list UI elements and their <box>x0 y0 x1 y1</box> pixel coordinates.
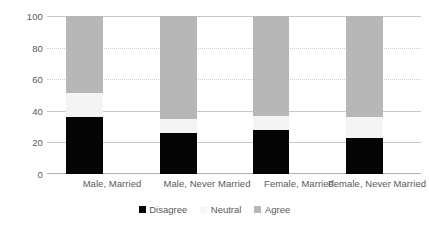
plot-area <box>47 16 421 174</box>
bar-segment-agree <box>253 16 289 116</box>
x-category-label-2: Female, Married <box>264 178 334 189</box>
bar-segment-disagree <box>66 117 103 174</box>
bar-segment-disagree <box>160 133 197 174</box>
x-category-label-0: Male, Married <box>83 178 142 189</box>
bar-male-married[interactable] <box>66 16 103 174</box>
bar-female-never-married[interactable] <box>346 16 383 174</box>
bar-segment-neutral <box>66 93 103 117</box>
x-category-label-3: Female, Never Married <box>328 178 426 189</box>
y-axis: 0 20 40 60 80 100 <box>0 16 43 174</box>
y-tick-label-100: 100 <box>3 11 43 22</box>
legend-label-neutral: Neutral <box>211 204 242 215</box>
y-tick-label-20: 20 <box>3 137 43 148</box>
bar-segment-neutral <box>346 117 383 138</box>
white-square-icon <box>200 206 207 213</box>
bar-female-married[interactable] <box>253 16 289 174</box>
legend-item-neutral[interactable]: Neutral <box>200 204 241 215</box>
bar-male-never-married[interactable] <box>160 16 197 174</box>
legend-label-disagree: Disagree <box>149 204 187 215</box>
chart-legend: Disagree Neutral Agree <box>0 204 429 215</box>
bar-segment-disagree <box>346 138 383 174</box>
y-tick-label-40: 40 <box>3 105 43 116</box>
legend-label-agree: Agree <box>265 204 290 215</box>
gray-square-icon <box>254 206 261 213</box>
bar-segment-agree <box>160 16 197 119</box>
stacked-bar-chart: 0 20 40 60 80 100 <box>0 0 429 227</box>
legend-item-agree[interactable]: Agree <box>254 204 290 215</box>
bar-segment-agree <box>346 16 383 117</box>
y-tick-label-60: 60 <box>3 74 43 85</box>
y-tick-label-0: 0 <box>3 169 43 180</box>
bar-segment-agree <box>66 16 103 93</box>
y-tick-label-80: 80 <box>3 42 43 53</box>
bar-segment-neutral <box>160 119 197 133</box>
bar-segment-disagree <box>253 130 289 174</box>
x-category-label-1: Male, Never Married <box>163 178 250 189</box>
black-square-icon <box>139 206 146 213</box>
bar-segment-neutral <box>253 116 289 130</box>
legend-item-disagree[interactable]: Disagree <box>139 204 188 215</box>
